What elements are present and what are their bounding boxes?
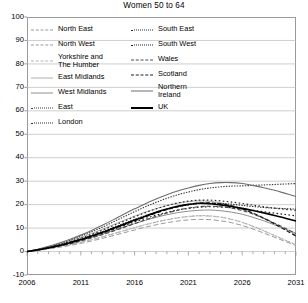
legend-column-left: North EastNorth WestYorkshire and The Hu… — [31, 22, 131, 130]
legend-label: Yorkshire and The Humber — [58, 53, 103, 70]
y-axis-tick-label: 60 — [0, 106, 24, 114]
legend-column-right: South EastSouth WestWalesScotlandNorther… — [131, 22, 227, 115]
legend-item: Yorkshire and The Humber — [31, 52, 131, 70]
y-axis-tick-label: 40 — [0, 153, 24, 161]
legend-swatch-icon — [131, 25, 153, 35]
legend-label: East — [58, 103, 73, 111]
legend-label: Scotland — [158, 70, 187, 78]
legend-swatch-icon — [31, 118, 53, 128]
legend-label: South West — [158, 40, 196, 48]
legend-swatch-icon — [31, 40, 53, 50]
x-minor-ticks — [27, 252, 296, 256]
series-line — [27, 219, 296, 251]
legend-label: UK — [158, 103, 168, 111]
legend-item: West Midlands — [31, 85, 131, 100]
legend-swatch-icon — [31, 103, 53, 113]
legend-item: Scotland — [131, 67, 227, 82]
x-axis-tick-label: 2006 — [7, 278, 47, 287]
legend-item: Northern Ireland — [131, 82, 227, 100]
legend-item: South East — [131, 22, 227, 37]
y-axis-tick-label: 70 — [0, 83, 24, 91]
y-axis-tick-label: 90 — [0, 36, 24, 44]
y-axis-tick-label: 50 — [0, 130, 24, 138]
legend-item: North East — [31, 22, 131, 37]
y-axis-tick-label: 20 — [0, 200, 24, 208]
legend-item: East — [31, 100, 131, 115]
legend-swatch-icon — [31, 73, 53, 83]
y-axis-tick-label: 100 — [0, 13, 24, 21]
y-axis-tick-label: 30 — [0, 177, 24, 185]
chart-container: Women 50 to 64 1009080706050403020100-10… — [0, 0, 308, 303]
x-axis-tick-label: 2021 — [168, 278, 208, 287]
legend-swatch-icon — [131, 86, 153, 96]
legend-item: North West — [31, 37, 131, 52]
legend-label: West Midlands — [58, 88, 106, 96]
series-line — [27, 206, 296, 251]
legend-swatch-icon — [131, 70, 153, 80]
x-axis-tick-label: 2011 — [61, 278, 101, 287]
legend-label: London — [58, 118, 83, 126]
y-axis-tick-label: 80 — [0, 60, 24, 68]
legend-swatch-icon — [31, 25, 53, 35]
legend-label: East Midlands — [58, 73, 104, 81]
series-line — [27, 184, 296, 252]
legend-item: South West — [131, 37, 227, 52]
legend-item: UK — [131, 100, 227, 115]
y-tick-marks — [25, 17, 28, 275]
legend-label: South East — [158, 25, 194, 33]
legend-item: Wales — [131, 52, 227, 67]
x-axis-tick-label: 2016 — [115, 278, 155, 287]
x-axis-tick-label: 2026 — [222, 278, 262, 287]
legend-label: Northern Ireland — [158, 83, 187, 100]
legend-item: London — [31, 115, 131, 130]
y-axis-tick-label: 0 — [0, 247, 24, 255]
legend-swatch-icon — [31, 56, 53, 66]
legend-item: East Midlands — [31, 70, 131, 85]
y-axis-tick-label: 10 — [0, 224, 24, 232]
legend-label: North East — [58, 25, 93, 33]
x-axis-tick-label: 2031 — [276, 278, 308, 287]
legend-swatch-icon — [131, 55, 153, 65]
legend-swatch-icon — [131, 40, 153, 50]
series-lines — [27, 182, 296, 251]
legend-label: North West — [58, 40, 95, 48]
legend-label: Wales — [158, 55, 178, 63]
legend-swatch-icon — [31, 88, 53, 98]
legend-swatch-icon — [131, 103, 153, 113]
